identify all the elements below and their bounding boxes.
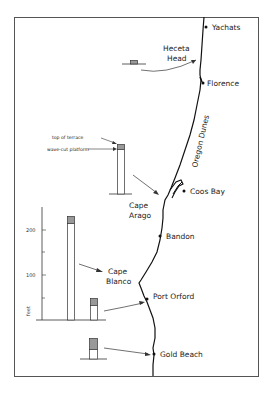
label-bandon: Bandon — [166, 232, 195, 241]
column-port-orford — [91, 299, 146, 321]
tick-200: 200 — [26, 227, 36, 233]
label-heceta-1: Heceta — [163, 44, 190, 53]
label-yachats: Yachats — [211, 23, 241, 32]
terrace-map-figure: Yachats Heceta Head Florence Oregon Dune… — [0, 0, 271, 398]
port-orford-dot — [146, 298, 149, 301]
label-coos-bay: Coos Bay — [190, 187, 225, 196]
florence-dot — [202, 82, 205, 85]
column-cape-arago: top of terrace wave-cut platform — [47, 135, 159, 195]
bandon-dot — [159, 235, 162, 238]
arrow-cape-arago — [133, 175, 157, 193]
label-gold-beach: Gold Beach — [160, 350, 203, 359]
figure-frame — [15, 18, 259, 377]
arrow-port-orford — [104, 303, 143, 311]
label-cape-arago-1: Cape — [129, 201, 149, 210]
label-florence: Florence — [207, 79, 239, 88]
label-heceta-2: Head — [167, 54, 187, 63]
axis-label-feet: feet — [25, 306, 31, 316]
label-cape-blanco-1: Cape — [108, 267, 128, 276]
label-cape-blanco-2: Blanco — [106, 277, 132, 286]
gold-beach-dot — [153, 353, 156, 356]
label-cape-arago-2: Arago — [129, 211, 152, 220]
yachats-dot — [205, 26, 208, 29]
coos-bay-dot — [183, 190, 186, 193]
tick-100: 100 — [26, 272, 36, 278]
legend-top-of-terrace: top of terrace — [52, 135, 84, 140]
column-gold-beach — [80, 339, 151, 360]
arrow-gold-beach — [104, 348, 148, 354]
legend-wave-cut-platform: wave-cut platform — [47, 147, 90, 152]
label-port-orford: Port Orford — [153, 292, 194, 301]
